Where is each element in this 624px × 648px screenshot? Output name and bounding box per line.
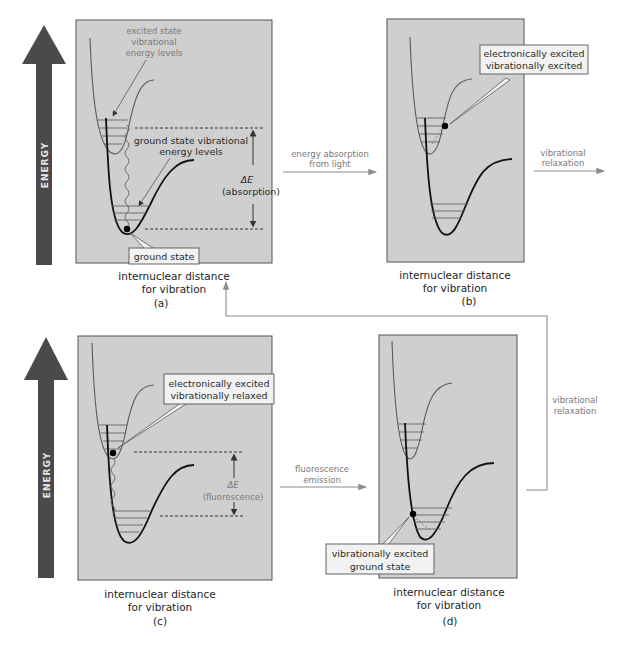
ground-levels-label-2: energy levels (159, 146, 223, 157)
excited-levels-label-1: excited state (126, 26, 181, 36)
jablonski-diagram: ENERGY excited state vibrational energy … (0, 0, 624, 648)
transition-d-a-1: vibrational (552, 395, 597, 405)
callout-b-2: vibrationally excited (486, 60, 583, 71)
panel-tag-a: (a) (154, 297, 169, 309)
transition-a-b-1: energy absorption (291, 149, 369, 159)
x-axis-label-c-1: internuclear distance (104, 588, 215, 600)
x-axis-label-a-2: for vibration (142, 283, 206, 295)
delta-e-label-c: (fluorescence) (203, 492, 264, 502)
transition-b-out-1: vibrational (540, 148, 585, 158)
transition-c-d-1: fluorescence (295, 464, 349, 474)
transition-c-d-2: emission (303, 475, 341, 485)
callout-d-2: ground state (350, 561, 411, 572)
excited-levels-label-2: vibrational (131, 37, 176, 47)
x-axis-label-d-1: internuclear distance (393, 586, 504, 598)
energy-arrow-top: ENERGY (22, 25, 66, 265)
energy-label-top: ENERGY (40, 142, 50, 188)
ground-levels-label-1: ground state vibrational (134, 135, 248, 146)
energy-arrow-bottom: ENERGY (24, 337, 68, 578)
panel-d: vibrationally excited ground state (326, 335, 517, 578)
delta-e-label-a: (absorption) (222, 186, 280, 197)
callout-c-1: electronically excited (168, 378, 269, 389)
ground-state-dot (124, 226, 130, 232)
callout-b-1: electronically excited (483, 48, 584, 59)
x-axis-label-c-2: for vibration (128, 601, 192, 613)
excited-levels-label-3: energy levels (126, 48, 184, 58)
panel-a: excited state vibrational energy levels … (76, 20, 280, 264)
x-axis-label-b-1: internuclear distance (399, 269, 510, 281)
transition-d-a-2: relaxation (554, 406, 597, 416)
panel-b: electronically excited vibrationally exc… (387, 19, 588, 262)
energy-label-bottom: ENERGY (42, 452, 52, 498)
panel-tag-c: (c) (153, 615, 167, 627)
delta-e-symbol-c: ΔE (226, 480, 239, 490)
callout-d-1: vibrationally excited (332, 548, 429, 559)
x-axis-label-a-1: internuclear distance (118, 270, 229, 282)
x-axis-label-d-2: for vibration (417, 599, 481, 611)
panel-tag-b: (b) (462, 295, 477, 307)
panel-c: ΔE (fluorescence) electronically excited… (78, 336, 274, 580)
delta-e-symbol-a: ΔE (240, 174, 254, 185)
panel-tag-d: (d) (443, 615, 458, 627)
callout-c-2: vibrationally relaxed (170, 390, 267, 401)
transition-b-out-2: relaxation (542, 158, 585, 168)
transition-a-b-2: from light (309, 159, 351, 169)
x-axis-label-b-2: for vibration (423, 282, 487, 294)
ground-state-callout-text: ground state (134, 251, 195, 262)
